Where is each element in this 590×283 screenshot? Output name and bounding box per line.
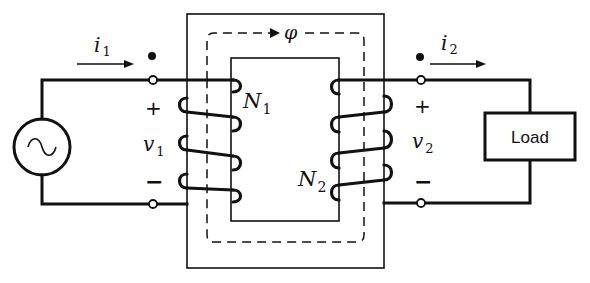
load-label: Load <box>511 128 549 147</box>
primary-coil-loop <box>233 190 241 202</box>
primary-plus-sign: + <box>145 96 162 120</box>
primary-voltage-label: v1 <box>143 132 165 159</box>
primary-polarity-dot <box>148 52 156 60</box>
primary-turns-label: N1 <box>242 89 271 117</box>
primary-coil-loop <box>180 174 188 188</box>
primary-top-wire <box>42 80 150 119</box>
secondary-coil-winding <box>339 180 384 185</box>
flux-arrow-icon <box>270 28 280 38</box>
load: Load <box>485 113 575 160</box>
primary-bottom-terminal <box>149 200 157 208</box>
primary-bottom-wire <box>42 175 150 204</box>
primary-top-terminal <box>149 76 157 84</box>
secondary-bottom-terminal <box>417 199 425 207</box>
secondary-current-label: i2 <box>441 31 458 57</box>
secondary-coil-loop <box>384 131 392 148</box>
secondary-plus-sign: + <box>414 94 431 118</box>
primary-circuit: i1 + v1 − <box>42 33 233 208</box>
secondary-coil-loop <box>332 153 340 168</box>
ac-source <box>14 119 70 175</box>
primary-coil-loop <box>233 156 241 170</box>
core-outer-edge <box>187 14 384 268</box>
primary-current-label: i1 <box>94 33 111 59</box>
primary-coil-loop <box>233 117 241 131</box>
secondary-coil-loop <box>332 185 340 200</box>
secondary-polarity-dot <box>416 53 424 61</box>
primary-coil-loop <box>180 98 188 112</box>
secondary-coil-loop <box>332 117 340 132</box>
secondary-turns-label: N2 <box>297 167 326 195</box>
magnetic-core <box>187 14 384 268</box>
secondary-top-terminal <box>417 76 425 84</box>
secondary-coil-winding <box>339 112 384 117</box>
secondary-top-wire-to-load <box>425 80 530 113</box>
secondary-bottom-wire-to-load <box>425 160 530 203</box>
secondary-coil-loop <box>332 80 340 94</box>
primary-coil-loop <box>233 80 241 92</box>
primary-coil-loop <box>180 136 188 150</box>
secondary-coil-winding <box>339 148 384 153</box>
secondary-coil-loop <box>384 96 392 112</box>
secondary-coil-loop <box>384 165 392 180</box>
primary-coil-winding <box>187 188 233 190</box>
secondary-minus-sign: − <box>414 169 432 194</box>
secondary-voltage-label: v2 <box>412 129 434 156</box>
primary-current-arrow-icon <box>124 60 134 68</box>
primary-coil: N1 <box>180 80 272 202</box>
primary-coil-winding <box>187 150 233 156</box>
transformer-diagram: φ i1 + v1 − N1 <box>0 0 590 283</box>
primary-coil-winding <box>187 112 233 117</box>
flux-path-left-top <box>207 33 270 80</box>
core-window <box>231 58 339 221</box>
secondary-coil: N2 <box>297 80 392 200</box>
flux-label: φ <box>284 21 298 43</box>
primary-minus-sign: − <box>145 169 163 194</box>
secondary-current-arrow-icon <box>476 60 486 68</box>
